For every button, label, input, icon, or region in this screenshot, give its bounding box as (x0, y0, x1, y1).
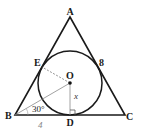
label-c: C (126, 111, 133, 122)
label-x: x (73, 91, 78, 101)
angle-arc-b (26, 109, 28, 116)
label-e: E (34, 57, 41, 68)
label-d: D (67, 117, 74, 128)
label-b: B (5, 110, 12, 121)
label-length-4: 4 (38, 120, 43, 130)
incircle-triangle-diagram: A B C D E 8 O x 30° 4 (0, 0, 150, 137)
label-tangent-point-right: 8 (99, 57, 104, 68)
label-o: O (66, 70, 74, 81)
center-point-o (68, 81, 72, 85)
label-a: A (67, 6, 75, 17)
label-angle-30: 30° (32, 104, 45, 114)
